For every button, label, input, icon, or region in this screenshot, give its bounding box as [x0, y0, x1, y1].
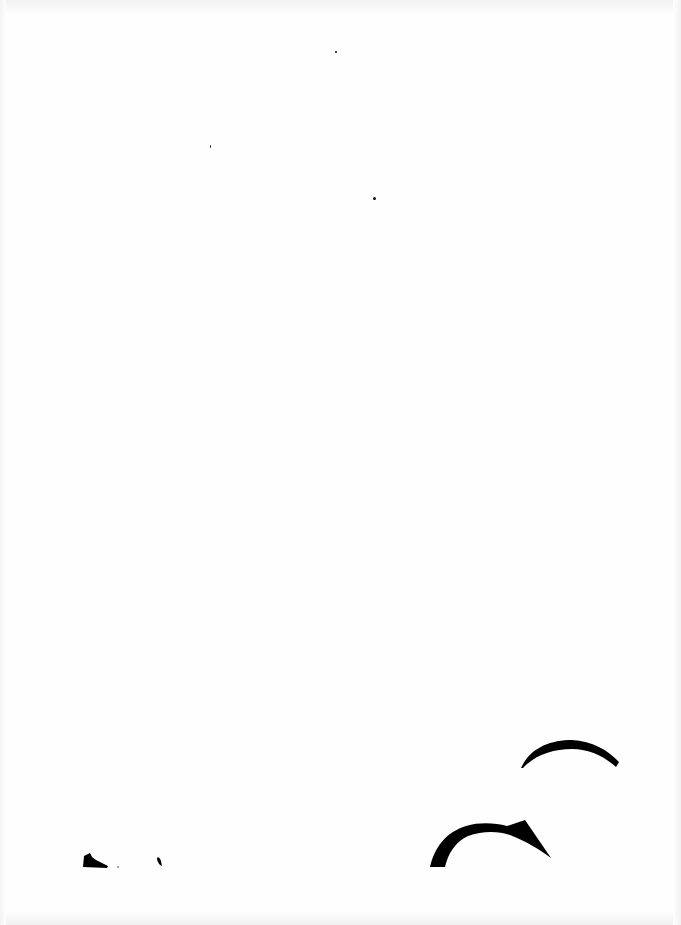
- scanned-page: [0, 0, 681, 925]
- glyph-fragments: [0, 0, 681, 925]
- glyph-fragment-small: [157, 857, 162, 866]
- arc-fragment-upper: [521, 740, 619, 768]
- arc-fragment-lower: [430, 820, 551, 867]
- glyph-fragment-left: [83, 853, 108, 868]
- speck-mark: [117, 866, 119, 868]
